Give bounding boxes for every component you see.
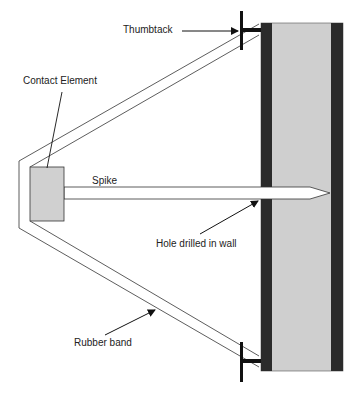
hole-arrow	[200, 201, 258, 234]
thumbtack-bottom	[240, 342, 261, 382]
contact-element-label: Contact Element	[23, 75, 97, 87]
diagram-svg	[0, 0, 356, 400]
thumbtack-label: Thumbtack	[123, 24, 172, 36]
contact-element	[30, 167, 64, 221]
rubber-band-arrow	[105, 310, 155, 335]
spike	[64, 187, 330, 199]
contact-element-leader	[47, 92, 62, 168]
spike-label: Spike	[92, 175, 117, 187]
rubber-band-label: Rubber band	[74, 337, 132, 349]
hole-label: Hole drilled in wall	[156, 238, 237, 250]
diagram-canvas: Thumbtack Contact Element Spike Hole dri…	[0, 0, 356, 400]
